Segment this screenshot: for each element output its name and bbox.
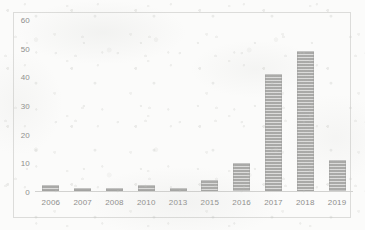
x-axis-tick-label: 2006	[42, 198, 61, 207]
x-axis-tick-label: 2019	[328, 198, 347, 207]
bar	[297, 51, 314, 191]
y-axis-tick-label: 50	[21, 44, 30, 53]
bar-group: 2015	[194, 20, 226, 191]
bar-series: 2006200720082010201320152016201720182019	[35, 20, 353, 191]
bar-group: 2008	[99, 20, 131, 191]
x-axis-tick-label: 2018	[296, 198, 315, 207]
bar-group: 2007	[67, 20, 99, 191]
x-axis-baseline	[35, 191, 353, 192]
x-axis-tick-label: 2013	[169, 198, 188, 207]
bar	[138, 185, 155, 191]
bar	[265, 74, 282, 191]
bar-group: 2017	[258, 20, 290, 191]
y-axis-tick-label: 30	[21, 102, 30, 111]
bar-group: 2006	[35, 20, 67, 191]
y-axis-tick-label: 10	[21, 159, 30, 168]
bar	[74, 188, 91, 191]
x-axis-tick-label: 2010	[137, 198, 156, 207]
bar-chart-plot-area: 0102030405060 20062007200820102013201520…	[35, 20, 353, 192]
x-axis-tick-label: 2017	[264, 198, 283, 207]
x-axis-tick-label: 2016	[232, 198, 251, 207]
bar-group: 2019	[321, 20, 353, 191]
bar	[106, 188, 123, 191]
bar-group: 2010	[130, 20, 162, 191]
bar-group: 2013	[162, 20, 194, 191]
x-axis-tick-label: 2008	[105, 198, 124, 207]
x-axis-tick-label: 2007	[73, 198, 92, 207]
y-axis-tick-label: 60	[21, 16, 30, 25]
y-axis-tick-label: 40	[21, 73, 30, 82]
bar	[201, 180, 218, 191]
x-axis-tick-label: 2015	[201, 198, 220, 207]
y-axis-tick-label: 20	[21, 130, 30, 139]
bar-group: 2018	[289, 20, 321, 191]
y-axis-tick-label: 0	[25, 188, 30, 197]
bar	[170, 188, 187, 191]
bar-group: 2016	[226, 20, 258, 191]
bar	[233, 163, 250, 192]
bar	[42, 185, 59, 191]
bar	[329, 160, 346, 191]
